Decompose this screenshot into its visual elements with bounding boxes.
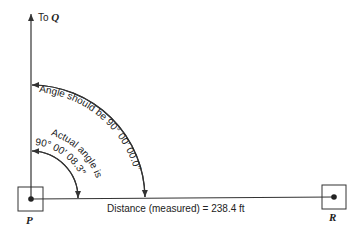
to-label: To Q [38, 11, 59, 23]
station-p-dot [28, 196, 34, 202]
point-p-label: P [26, 214, 33, 226]
point-r-label: R [328, 211, 336, 223]
line-p-to-r [31, 197, 334, 199]
station-r-dot [331, 194, 337, 200]
survey-angle-diagram: To Q Angle should be 90° 00′ 00.0″ Actua… [0, 0, 364, 232]
distance-label: Distance (measured) = 238.4 ft [107, 203, 245, 214]
